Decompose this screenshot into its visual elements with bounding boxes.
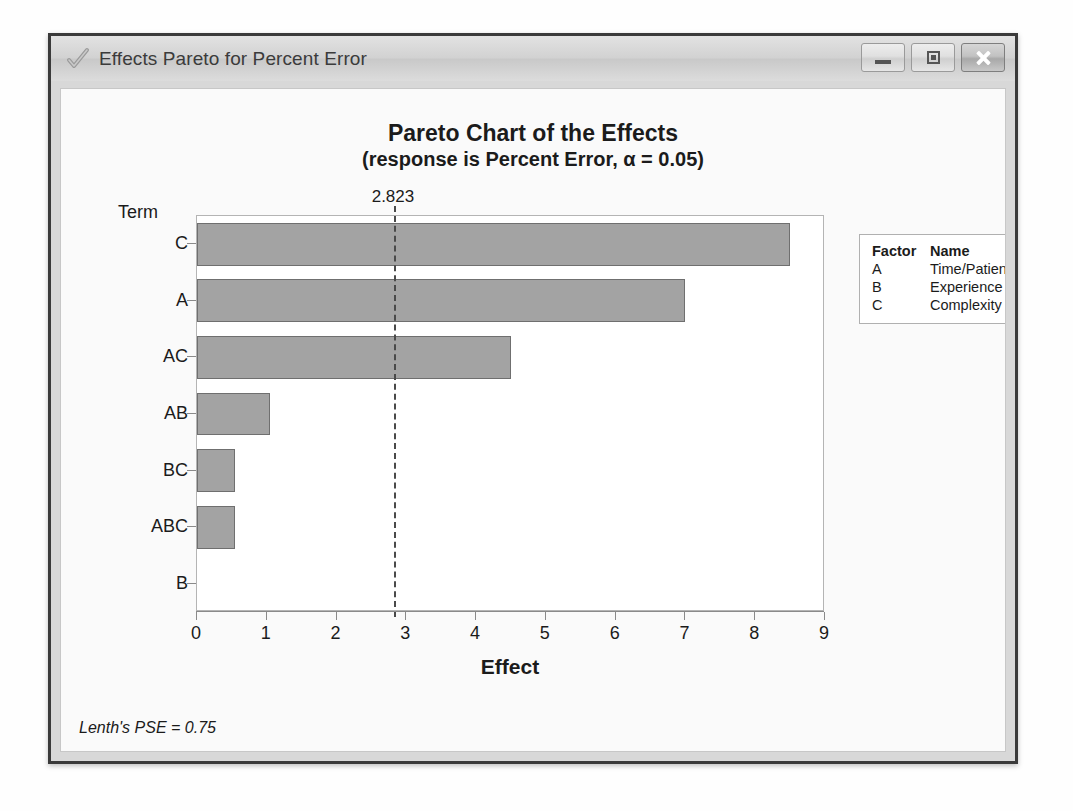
y-tick-ac [187,356,196,357]
y-tick-a [187,300,196,301]
legend-header-row: Factor Name [872,242,1006,260]
minimize-icon [875,60,891,64]
legend-header-factor: Factor [872,242,930,260]
x-tick-0 [196,612,197,620]
plot-area [196,215,824,611]
legend-factor: C [872,296,930,314]
chart-subtitle: (response is Percent Error, α = 0.05) [61,148,1005,171]
legend-name: Experience [930,278,1003,296]
legend-row: BExperience [872,278,1006,296]
bar-ab [197,393,270,436]
y-tick-label-ac: AC [128,346,188,367]
y-tick-label-b: B [128,572,188,593]
legend-factor: A [872,260,930,278]
x-tick-label-7: 7 [679,623,689,644]
legend-row: ATime/Patient [872,260,1006,278]
x-tick-label-4: 4 [470,623,480,644]
bar-series [197,216,823,610]
lenth-pse-annotation: Lenth's PSE = 0.75 [79,719,216,737]
y-tick-label-bc: BC [128,459,188,480]
legend-row: CComplexity [872,296,1006,314]
x-axis-title: Effect [196,655,824,679]
x-tick-2 [336,612,337,620]
close-button[interactable] [961,43,1005,72]
x-tick-label-0: 0 [191,623,201,644]
y-tick-c [187,243,196,244]
x-tick-3 [405,612,406,620]
close-icon [974,49,992,67]
y-tick-b [187,583,196,584]
x-tick-7 [684,612,685,620]
bar-c [197,223,790,266]
bar-a [197,279,685,322]
reference-line [394,206,396,617]
chart-canvas: Pareto Chart of the Effects (response is… [60,88,1006,752]
x-axis: 0123456789 [196,611,824,612]
x-tick-6 [615,612,616,620]
legend-name: Time/Patient [930,260,1006,278]
x-tick-label-5: 5 [540,623,550,644]
x-tick-label-9: 9 [819,623,829,644]
chart-title: Pareto Chart of the Effects [61,120,1005,147]
checkmark-icon [65,46,91,72]
window-controls [861,43,1005,72]
maximize-button[interactable] [911,43,955,72]
x-tick-4 [475,612,476,620]
x-tick-5 [545,612,546,620]
window-titlebar[interactable]: Effects Pareto for Percent Error [51,36,1015,81]
screen: Effects Pareto for Percent Error Pareto … [0,0,1073,811]
factor-legend: Factor Name ATime/PatientBExperienceCCom… [859,234,1006,324]
x-tick-8 [754,612,755,620]
x-tick-label-8: 8 [749,623,759,644]
y-tick-label-c: C [128,233,188,254]
y-tick-ab [187,413,196,414]
legend-factor: B [872,278,930,296]
x-tick-1 [266,612,267,620]
y-tick-label-ab: AB [128,403,188,424]
bar-bc [197,449,235,492]
x-tick-label-2: 2 [331,623,341,644]
bar-ac [197,336,511,379]
y-axis-labels: CAACABBCABCB [116,89,188,751]
maximize-icon [927,51,940,64]
legend-header-name: Name [930,242,970,260]
x-tick-label-3: 3 [400,623,410,644]
x-tick-9 [824,612,825,620]
minimize-button[interactable] [861,43,905,72]
y-tick-label-abc: ABC [128,516,188,537]
bar-abc [197,506,235,549]
window-title: Effects Pareto for Percent Error [99,48,367,70]
x-tick-label-1: 1 [261,623,271,644]
y-tick-label-a: A [128,289,188,310]
y-tick-abc [187,526,196,527]
legend-rows: ATime/PatientBExperienceCComplexity [872,260,1006,314]
x-tick-label-6: 6 [610,623,620,644]
y-tick-bc [187,470,196,471]
reference-line-label: 2.823 [372,187,415,207]
legend-name: Complexity [930,296,1002,314]
chart-window: Effects Pareto for Percent Error Pareto … [48,33,1018,764]
